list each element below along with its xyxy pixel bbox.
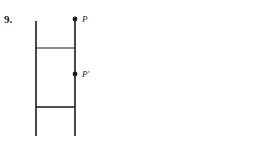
point-p-label: P bbox=[81, 14, 88, 24]
point-p-prime-dot bbox=[73, 72, 78, 77]
point-p-dot bbox=[73, 17, 78, 22]
ladder-diagram: P P' bbox=[0, 0, 266, 146]
geometry-figure: 9. P P' bbox=[0, 0, 266, 146]
point-p-prime-label: P' bbox=[81, 69, 90, 79]
